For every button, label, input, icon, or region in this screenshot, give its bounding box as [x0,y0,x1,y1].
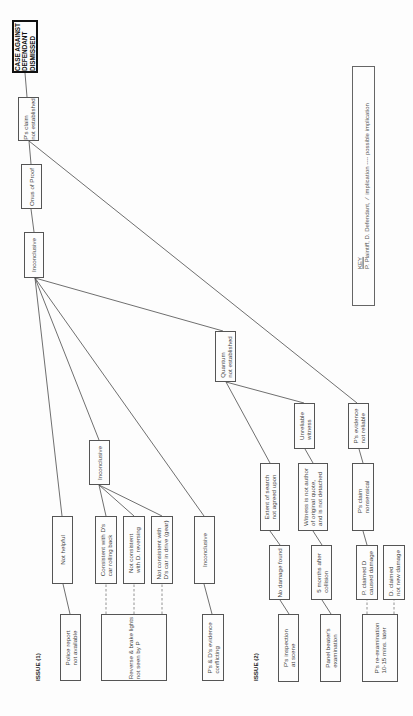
legend-text: P. Plaintiff, D. Defendant, ⁄ implicatio… [364,103,370,269]
no-damage-found-node: No damage found [269,545,290,600]
issue-2-label: ISSUE (2) [252,653,259,681]
p-claim-nonsensical-node: P's claim nonsensical [352,463,374,531]
p-inspection-scene-node: P's inspection at scene [278,614,299,682]
five-months-after-node: 5 months after collision [311,545,332,600]
no-damage-found-label: No damage found [276,548,283,597]
p-re-examination-node: P's re-examination 10-15 mins. later [362,614,398,682]
p-evidence-not-reliable-label: P's evidence not reliable [351,409,365,444]
reverse-brake-lights-node: Reverse & brake lights not seen by P [101,614,167,681]
d-claimed-not-new-node: D. claimed not new damage [383,545,405,600]
legend-key: KEYP. Plaintiff, D. Defendant, ⁄ implica… [352,66,375,306]
witness-not-author-node: Witness is not author of original quote,… [298,463,328,531]
not-consistent-drive-node: Not consistent with D's car in drive (ge… [151,516,173,584]
witness-not-author-label: Witness is not author of original quote,… [302,468,324,526]
p-re-examination-label: P's re-examination 10-15 mins. later [373,622,387,673]
d-claimed-not-new-label: D. claimed not new damage [387,550,401,596]
inconclusive-top-node: Inconclusive [24,232,44,278]
reverse-brake-lights-label: Reverse & brake lights not seen by P [127,616,141,678]
p-d-evidence-conflicting-label: P's & D's evidence conflicting [206,622,220,673]
quantum-not-established-label: Quantum not established [218,336,232,378]
p-claim-not-established-label: P's claim not established [21,98,35,140]
p-claim-not-established-node: P's claim not established [18,97,39,141]
panel-beater-exam-node: Panel beater's examination [320,614,341,682]
p-evidence-not-reliable-node: P's evidence not reliable [348,403,369,449]
inconclusive-top-label: Inconclusive [30,238,37,272]
extent-of-search-label: Extent of search not agreed upon [263,474,277,519]
inconclusive-mid-node: Inconclusive [89,440,110,485]
police-report-label: Police report not available [63,630,77,665]
inconclusive-mid-label: Inconclusive [96,445,103,479]
case-dismissed-label: CASE AGAINST DEFENDANT DISMISSED [14,22,36,70]
quantum-not-established-node: Quantum not established [215,331,236,382]
unreliable-witness-node: Unreliable witness [294,403,315,449]
not-consistent-reversing-node: Not consistent with D. reversing [123,516,145,584]
not-consistent-reversing-label: Not consistent with D. reversing [127,527,141,573]
consistent-rolling-back-label: Consistent with D's car rolling back [99,524,113,576]
panel-beater-exam-label: Panel beater's examination [323,628,337,667]
p-inspection-scene-label: P's inspection at scene [281,629,295,667]
p-claimed-d-caused-label: P. claimed D caused damage [360,550,374,594]
not-helpful-label: Not helpful [59,535,66,565]
extent-of-search-node: Extent of search not agreed upon [260,463,280,531]
p-claim-nonsensical-label: P's claim nonsensical [356,481,370,514]
not-consistent-drive-label: Not consistent with D's car in drive (ge… [155,521,169,580]
consistent-rolling-back-node: Consistent with D's car rolling back [95,516,117,584]
case-dismissed-node: CASE AGAINST DEFENDANT DISMISSED [12,20,38,73]
unreliable-witness-label: Unreliable witness [297,412,311,440]
issue-1-label: ISSUE (1) [34,653,41,681]
p-claimed-d-caused-node: P. claimed D caused damage [356,545,378,600]
inconclusive-right-node: Inconclusive [194,516,215,584]
police-report-node: Police report not available [60,614,81,681]
onus-of-proof-node: Onus of Proof [21,164,42,209]
inconclusive-right-label: Inconclusive [201,533,208,567]
not-helpful-node: Not helpful [52,516,73,584]
five-months-after-label: 5 months after collision [314,553,328,593]
argument-diagram: CASE AGAINST DEFENDANT DISMISSED P's cla… [0,0,413,716]
onus-of-proof-label: Onus of Proof [28,167,35,205]
legend-title: KEY [356,103,363,269]
p-d-evidence-conflicting-node: P's & D's evidence conflicting [202,614,224,681]
